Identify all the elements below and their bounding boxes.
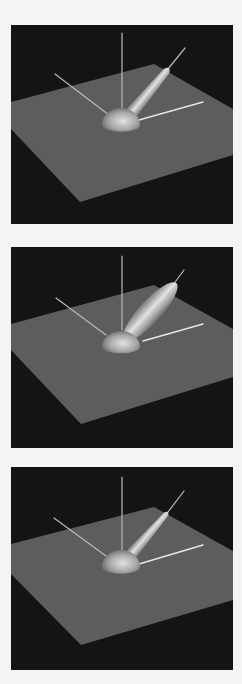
axis-line-diagonal (168, 48, 185, 69)
render-panel-3 (11, 467, 233, 670)
render-panel-1 (11, 25, 233, 224)
axis-line-diagonal (168, 491, 184, 512)
render-panel-2 (11, 247, 233, 448)
